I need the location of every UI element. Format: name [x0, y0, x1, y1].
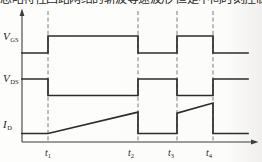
series-label-id: ID [2, 118, 12, 131]
waveform-diagram: VGSVDSIDt1t2t3t4 [0, 0, 262, 162]
x-axis-arrow [251, 140, 259, 145]
series-label-vgs: VGS [3, 30, 19, 43]
time-label-t3: t3 [168, 147, 174, 159]
time-label-t2: t2 [128, 147, 134, 159]
time-label-t1: t1 [45, 147, 51, 159]
waveform-id [22, 103, 248, 134]
time-label-t4: t4 [206, 147, 213, 159]
y-axis-arrow [20, 9, 25, 17]
series-label-vds: VDS [3, 72, 19, 85]
scanned-figure-page: 忽略特性回路网络的斩波等速波形 但是中间时刻控制 VGSVDSIDt1t2t3t… [0, 0, 262, 162]
waveform-vds [22, 79, 248, 96]
waveform-vgs [22, 36, 248, 53]
